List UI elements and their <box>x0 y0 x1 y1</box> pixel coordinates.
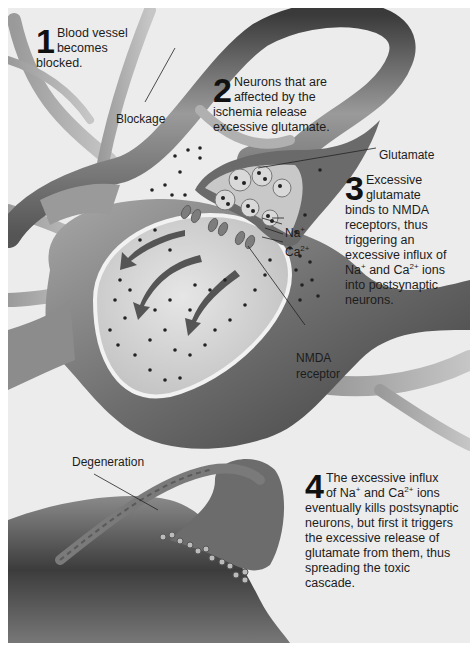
label-sodium-ion: Na+ <box>285 226 305 240</box>
step-1-line3: blocked. <box>36 56 151 71</box>
label-calcium-ion: Ca2+ <box>285 245 309 259</box>
step-4-line4: neurons, but first it triggers <box>305 516 470 531</box>
step-3-line3: binds to NMDA <box>345 203 470 218</box>
step-3-line5: triggering an <box>345 233 470 248</box>
label-nmda-receptor: NMDA receptor <box>296 350 340 382</box>
step-3-number: 3 <box>345 174 364 202</box>
step-4-line3: eventually kills postsynaptic <box>305 501 470 516</box>
label-blockage: Blockage <box>116 112 165 126</box>
step-4-line1: The excessive influx <box>305 471 470 486</box>
illustration-panel: 1 Blood vessel becomes blocked. Blockage… <box>8 8 470 643</box>
step-2: 2 Neurons that are affected by the ische… <box>213 75 353 135</box>
step-3-line7: Na+ and Ca2+ ions <box>345 263 470 278</box>
step-4-number: 4 <box>305 472 324 500</box>
step-2-line4: excessive glutamate. <box>213 120 353 135</box>
step-4-line5: the excessive release of <box>305 531 470 546</box>
step-4: 4 The excessive influx of Na+ and Ca2+ i… <box>305 471 470 591</box>
step-3: 3 Excessive glutamate binds to NMDA rece… <box>345 173 470 308</box>
step-3-line9: neurons. <box>345 293 470 308</box>
label-glutamate: Glutamate <box>379 148 434 162</box>
step-4-line2: of Na+ and Ca2+ ions <box>305 486 470 501</box>
step-1: 1 Blood vessel becomes blocked. <box>36 26 151 71</box>
step-2-line2: affected by the <box>213 90 353 105</box>
label-degeneration: Degeneration <box>72 455 144 469</box>
step-2-line1: Neurons that are <box>213 75 353 90</box>
step-4-line8: cascade. <box>305 576 470 591</box>
step-2-number: 2 <box>213 76 232 104</box>
step-4-line7: spreading the toxic <box>305 561 470 576</box>
step-4-line6: glutamate from them, thus <box>305 546 470 561</box>
step-3-line6: excessive influx of <box>345 248 470 263</box>
step-3-line4: receptors, thus <box>345 218 470 233</box>
step-2-line3: ischemia release <box>213 105 353 120</box>
step-1-number: 1 <box>36 27 55 55</box>
step-3-line8: into postsynaptic <box>345 278 470 293</box>
